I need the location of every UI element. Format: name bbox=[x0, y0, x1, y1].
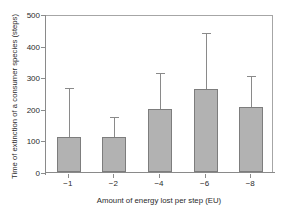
error-bar-cap bbox=[65, 88, 74, 89]
error-bar-stem bbox=[160, 74, 161, 109]
bar-chart-figure: Time of extinction of a consumer species… bbox=[0, 0, 287, 217]
error-bar-cap bbox=[156, 73, 165, 74]
y-tick-label: 400 bbox=[16, 42, 40, 51]
y-tick-mark bbox=[41, 141, 45, 142]
y-tick-mark bbox=[41, 173, 45, 174]
x-tick-mark bbox=[159, 174, 160, 178]
bar bbox=[239, 107, 263, 172]
error-bar-stem bbox=[206, 34, 207, 89]
x-tick-mark bbox=[250, 174, 251, 178]
error-bar-stem bbox=[251, 77, 252, 107]
x-tick-label: −6 bbox=[185, 179, 225, 188]
bar bbox=[57, 137, 81, 172]
x-tick-label: −8 bbox=[230, 179, 270, 188]
y-axis-line bbox=[45, 15, 46, 175]
error-bar-cap bbox=[110, 117, 119, 118]
x-tick-label: −2 bbox=[93, 179, 133, 188]
error-bar-stem bbox=[114, 118, 115, 138]
x-tick-mark bbox=[113, 174, 114, 178]
y-tick-label: 200 bbox=[16, 105, 40, 114]
y-tick-mark bbox=[41, 78, 45, 79]
y-tick-mark bbox=[41, 110, 45, 111]
x-axis-title: Amount of energy lost per step (EU) bbox=[45, 196, 273, 205]
error-bar-stem bbox=[69, 89, 70, 137]
error-bar-cap bbox=[202, 33, 211, 34]
y-tick-label: 300 bbox=[16, 74, 40, 83]
plot-area bbox=[45, 15, 273, 173]
bar bbox=[194, 89, 218, 172]
y-axis-tick-labels: 0100200300400500 bbox=[14, 0, 40, 217]
y-tick-label: 500 bbox=[16, 11, 40, 20]
y-tick-label: 100 bbox=[16, 137, 40, 146]
y-tick-mark bbox=[41, 15, 45, 16]
bar bbox=[148, 109, 172, 172]
y-tick-label: 0 bbox=[16, 169, 40, 178]
error-bar-cap bbox=[247, 76, 256, 77]
x-tick-label: −4 bbox=[139, 179, 179, 188]
x-tick-label: −1 bbox=[48, 179, 88, 188]
bar bbox=[102, 137, 126, 172]
x-tick-mark bbox=[205, 174, 206, 178]
x-tick-mark bbox=[68, 174, 69, 178]
y-tick-mark bbox=[41, 47, 45, 48]
